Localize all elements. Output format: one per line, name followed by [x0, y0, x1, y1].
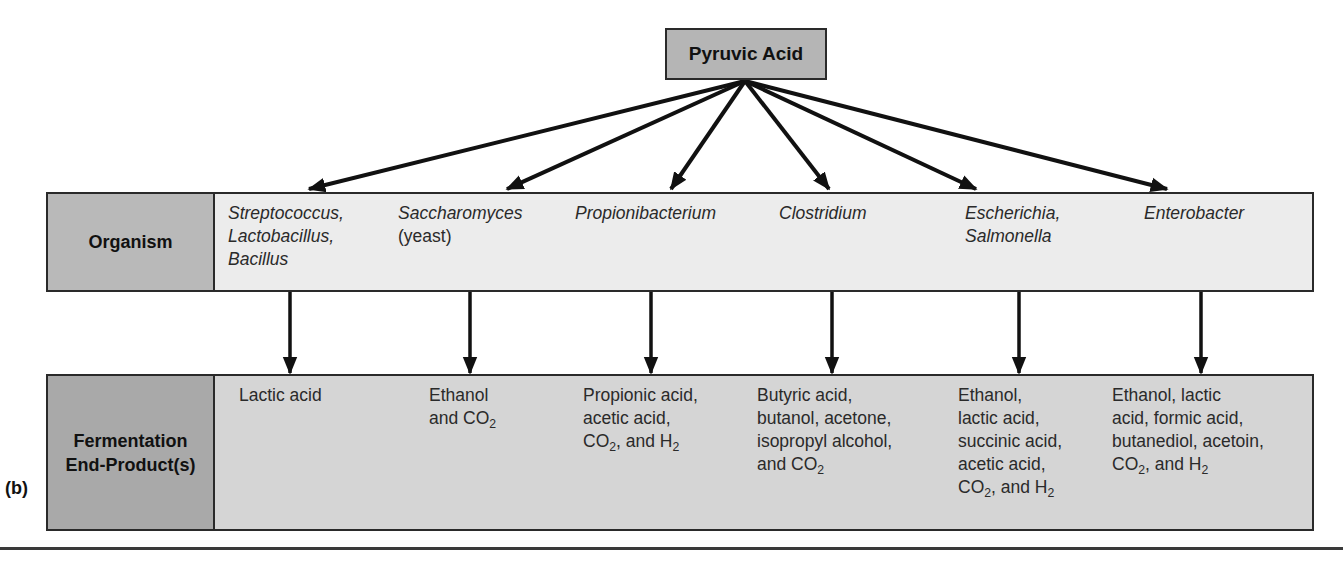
organism-cell-4: Clostridium	[779, 202, 867, 225]
product-line: acetic acid,	[958, 453, 1062, 476]
arrow-to-enterobacter	[745, 81, 1167, 189]
product-line: succinic acid,	[958, 430, 1062, 453]
product-cell-2: Ethanoland CO2	[429, 384, 496, 430]
arrow-to-clostridium	[745, 81, 829, 189]
organism-cell-1: Streptococcus, Lactobacillus, Bacillus	[228, 202, 344, 271]
product-line: CO2, and H2	[583, 430, 698, 453]
arrow-to-escherichia	[745, 81, 976, 189]
product-arrows	[290, 292, 1201, 373]
organism-row-header: Organism	[48, 194, 215, 290]
product-cell-6: Ethanol, lacticacid, formic acid,butaned…	[1112, 384, 1264, 476]
organism-cell-3: Propionibacterium	[575, 202, 716, 225]
organism-cell-6: Enterobacter	[1144, 202, 1244, 225]
product-cell-1: Lactic acid	[239, 384, 322, 407]
product-line: butanediol, acetoin,	[1112, 430, 1264, 453]
product-cell-3: Propionic acid,acetic acid,CO2, and H2	[583, 384, 698, 453]
source-label: Pyruvic Acid	[689, 43, 803, 65]
product-line: butanol, acetone,	[757, 407, 892, 430]
organism-cell-2: Saccharomyces (yeast)	[398, 202, 523, 248]
product-line: and CO2	[429, 407, 496, 430]
product-line: Ethanol,	[958, 384, 1062, 407]
product-line: Butyric acid,	[757, 384, 892, 407]
panel-label: (b)	[5, 478, 28, 499]
pyruvic-acid-box: Pyruvic Acid	[665, 28, 827, 80]
products-row-header: Fermentation End-Product(s)	[48, 376, 215, 529]
organism-note-yeast: (yeast)	[398, 225, 523, 248]
product-line: Ethanol, lactic	[1112, 384, 1264, 407]
branch-arrows	[309, 81, 1167, 189]
arrow-to-saccharomyces	[507, 81, 745, 189]
organism-cell-5: Escherichia, Salmonella	[965, 202, 1060, 248]
product-line: CO2, and H2	[958, 476, 1062, 499]
arrow-to-streptococcus	[309, 81, 745, 189]
product-line: and CO2	[757, 453, 892, 476]
product-line: acid, formic acid,	[1112, 407, 1264, 430]
product-cell-5: Ethanol,lactic acid,succinic acid,acetic…	[958, 384, 1062, 499]
product-line: Ethanol	[429, 384, 496, 407]
product-line: isopropyl alcohol,	[757, 430, 892, 453]
organism-row: Organism Streptococcus, Lactobacillus, B…	[46, 192, 1314, 292]
product-line: Propionic acid,	[583, 384, 698, 407]
product-line: CO2, and H2	[1112, 453, 1264, 476]
arrow-to-propionibacterium	[671, 81, 745, 189]
product-line: acetic acid,	[583, 407, 698, 430]
products-row: Fermentation End-Product(s) Lactic acid …	[46, 374, 1314, 531]
product-cell-4: Butyric acid,butanol, acetone,isopropyl …	[757, 384, 892, 476]
bottom-divider	[0, 547, 1343, 550]
product-line: Lactic acid	[239, 384, 322, 407]
product-line: lactic acid,	[958, 407, 1062, 430]
